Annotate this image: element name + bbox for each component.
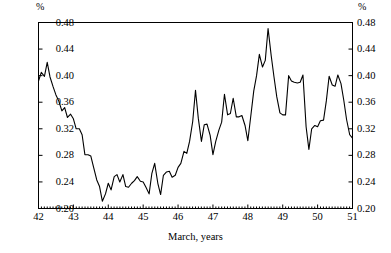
y-axis-tick-label-right: 0.32 [357,124,375,135]
y-axis-tick-label-left: 0.32 [56,124,74,135]
y-axis-unit-right: % [358,2,366,12]
y-axis-tick-label-right: 0.24 [357,177,375,188]
x-axis-ticks-minor [41,207,349,209]
y-axis-tick-label-left: 0.48 [56,18,74,29]
x-axis-tick-label: 43 [61,212,85,223]
x-axis-tick-label: 47 [201,212,225,223]
x-axis-tick-label: 50 [306,212,330,223]
chart-figure: % % 0.200.240.280.320.360.400.440.48 0.2… [0,0,391,253]
y-axis-tick-label-right: 0.44 [357,44,375,55]
y-axis-unit-left: % [36,2,44,12]
y-axis-tick-label-left: 0.36 [56,97,74,108]
y-axis-tick-label-right: 0.48 [357,18,375,29]
x-axis-tick-label: 49 [271,212,295,223]
y-axis-tick-label-right: 0.40 [357,71,375,82]
x-axis-tick-label: 42 [27,212,51,223]
y-axis-tick-label-left: 0.24 [56,177,74,188]
x-axis-tick-label: 48 [236,212,260,223]
x-axis-title: March, years [0,231,391,242]
y-axis-tick-label-right: 0.36 [357,97,375,108]
y-axis-tick-label-left: 0.28 [56,150,74,161]
y-axis-tick-label-left: 0.40 [56,71,74,82]
y-axis-tick-label-right: 0.28 [357,150,375,161]
x-axis-tick-label: 46 [166,212,190,223]
x-axis-tick-label: 45 [131,212,155,223]
x-axis-tick-label: 44 [96,212,120,223]
y-axis-tick-label-left: 0.44 [56,44,74,55]
x-axis-tick-label: 51 [341,212,365,223]
